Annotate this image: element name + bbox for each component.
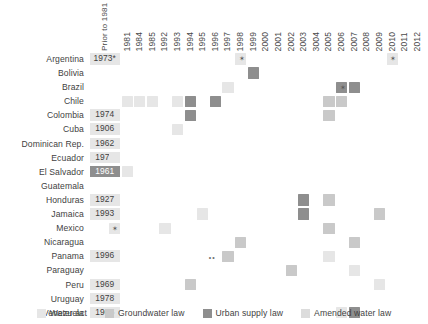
column-header-year-2008: 2008 (362, 31, 371, 51)
table-row: Jamaica1993 (0, 207, 428, 221)
legend-item-urban_supply_law[interactable]: Urban supply law (203, 308, 284, 318)
table-row: Guatemala (0, 179, 428, 193)
legend-item-water_act[interactable]: Water act (37, 308, 87, 318)
table-row: Paraguay (0, 263, 428, 277)
heatmap-cell-urban_supply_law-2003 (298, 194, 309, 205)
column-header-year-1985: 1985 (147, 31, 156, 51)
column-header-year-3004: 3004 (311, 31, 320, 51)
table-row: Nicaragua (0, 235, 428, 249)
column-header-year-2000: 2000 (261, 31, 270, 51)
prior-year-cell: 1996 (90, 250, 121, 262)
heatmap-cell-groundwater_law-1994 (185, 279, 196, 290)
heatmap-cell-water_act-2007 (349, 265, 360, 276)
row-label-panama: Panama (0, 249, 84, 263)
column-header-year-1995: 1995 (198, 31, 207, 51)
column-header-row: Prior to 1981198119841985199219931994199… (0, 0, 428, 52)
column-header-year-2002: 2002 (286, 31, 295, 51)
table-row: Mexico✶ (0, 221, 428, 235)
legend-swatch-icon (37, 309, 46, 318)
heatmap-cell-groundwater_law-2002 (286, 265, 297, 276)
column-header-year-1998: 1998 (236, 31, 245, 51)
row-label-cuba: Cuba (0, 122, 84, 136)
heatmap-cell-groundwater_law-1997 (222, 251, 233, 262)
heatmap-cell-groundwater_law-2009 (374, 208, 385, 219)
table-row: Bolivia (0, 66, 428, 80)
prior-year-cell: 1962 (90, 138, 121, 150)
column-header-year-1981: 1981 (122, 31, 131, 51)
legend-item-groundwater_law[interactable]: Groundwater law (105, 308, 184, 318)
prior-year-cell: 1927 (90, 194, 121, 206)
chart-legend: Water actGroundwater lawUrban supply law… (0, 305, 428, 321)
table-row: Colombia1974 (0, 108, 428, 122)
prior-year-cell: 1906 (90, 123, 121, 135)
column-header-year-2010: 2010 (387, 31, 396, 51)
prior-year-cell: 1969 (90, 279, 121, 291)
table-row: Cuba1906 (0, 122, 428, 136)
row-label-paraguay: Paraguay (0, 263, 84, 277)
column-header-year-1992: 1992 (160, 31, 169, 51)
heatmap-cell-groundwater_law-2006 (336, 96, 347, 107)
row-label-dominican-rep: Dominican Rep. (0, 137, 84, 151)
heatmap-cell-groundwater_law-2005 (323, 110, 334, 121)
heatmap-cell-groundwater_law-2005 (323, 223, 334, 234)
table-row: Peru1969 (0, 278, 428, 292)
row-label-chile: Chile (0, 94, 84, 108)
column-header-year-1997: 1997 (223, 31, 232, 51)
cell-star-marker: ✶ (112, 224, 118, 233)
heatmap-cell-urban_supply_law-1996 (210, 96, 221, 107)
legend-swatch-icon (105, 309, 114, 318)
column-header-year-2003: 2003 (299, 31, 308, 51)
heatmap-cell-water_act-1995 (197, 208, 208, 219)
row-label-brazil: Brazil (0, 80, 84, 94)
prior-year-cell: 1993 (90, 208, 121, 220)
row-label-nicaragua: Nicaragua (0, 235, 84, 249)
table-row: Argentina1973*✶✶ (0, 52, 428, 66)
table-row: Uruguay1978 (0, 292, 428, 306)
legend-label: Groundwater law (118, 308, 184, 318)
row-label-ecuador: Ecuador (0, 151, 84, 165)
table-row: Dominican Rep.1962 (0, 137, 428, 151)
table-row: Honduras1927 (0, 193, 428, 207)
heatmap-cell-urban_supply_law-1994 (185, 96, 196, 107)
legend-item-amended_water_law[interactable]: Amended water law (301, 308, 391, 318)
heatmap-cell-urban_supply_law-2003 (298, 208, 309, 219)
prior-year-cell: 1974 (90, 109, 121, 121)
table-row: Chile (0, 94, 428, 108)
cell-star-marker: ✶ (390, 54, 396, 63)
prior-year-cell: 1961 (90, 166, 121, 178)
column-header-year-1994: 1994 (185, 31, 194, 51)
heatmap-cell-urban_supply_law-1994 (185, 110, 196, 121)
heatmap-cell-water_act-1993 (172, 96, 183, 107)
heatmap-cell-groundwater_law-2005 (323, 194, 334, 205)
prior-year-cell: 1973* (90, 53, 121, 65)
column-header-year-2006: 2006 (337, 31, 346, 51)
column-header-year-2007: 2007 (349, 31, 358, 51)
column-header-year-2005: 2005 (324, 31, 333, 51)
table-row: El Salvador1961 (0, 165, 428, 179)
row-label-colombia: Colombia (0, 108, 84, 122)
column-header-year-2012: 2012 (412, 31, 421, 51)
column-header-year-1984: 1984 (135, 31, 144, 51)
column-header-prior-to-1981: Prior to 1981 (101, 3, 109, 51)
water-law-timeline-heatmap: Prior to 1981198119841985199219931994199… (0, 0, 428, 324)
row-label-el-salvador: El Salvador (0, 165, 84, 179)
heatmap-cell-water_act-1992 (159, 223, 170, 234)
heatmap-cell-water_act-1981 (122, 166, 133, 177)
row-label-mexico: Mexico (0, 221, 84, 235)
row-label-honduras: Honduras (0, 193, 84, 207)
country-rows-container: Argentina1973*✶✶BoliviaBrazil✶ChileColom… (0, 52, 428, 320)
column-header-year-1999: 1999 (248, 31, 257, 51)
heatmap-cell-water_act-1993 (172, 124, 183, 135)
row-label-jamaica: Jamaica (0, 207, 84, 221)
heatmap-cell-urban_supply_law-1999 (248, 67, 259, 78)
column-header-year-2011: 2011 (400, 32, 409, 51)
cell-star-marker: ✶ (239, 54, 245, 63)
heatmap-cell-water_act-1981 (122, 96, 133, 107)
row-label-bolivia: Bolivia (0, 66, 84, 80)
row-label-guatemala: Guatemala (0, 179, 84, 193)
table-row: Brazil✶ (0, 80, 428, 94)
cell-star-marker: ✶ (340, 83, 346, 92)
heatmap-cell-urban_supply_law-2007 (349, 82, 360, 93)
heatmap-cell-water_act-2009 (374, 279, 385, 290)
legend-swatch-icon (301, 309, 310, 318)
